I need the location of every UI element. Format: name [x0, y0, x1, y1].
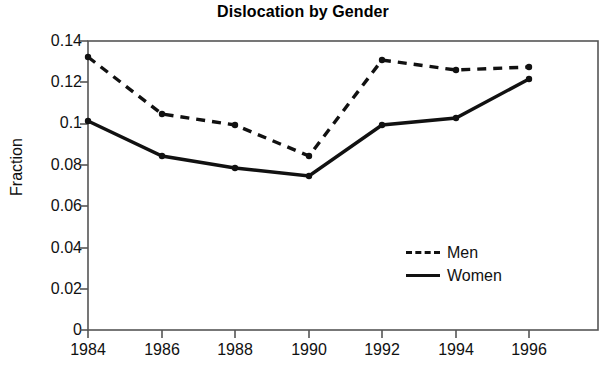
y-axis-ticks — [80, 41, 88, 330]
series-women-markers — [85, 76, 532, 179]
chart-legend: Men Women — [406, 241, 536, 289]
plot-area — [0, 0, 606, 371]
x-axis-ticks — [88, 330, 529, 338]
legend-item-men: Men — [406, 241, 536, 264]
series-men — [85, 54, 532, 159]
series-men-line — [88, 57, 529, 156]
legend-item-women: Women — [406, 264, 536, 287]
legend-solid-line-icon — [406, 274, 440, 277]
legend-label: Men — [447, 244, 478, 262]
legend-dashed-line-icon — [406, 251, 440, 254]
chart-container: Dislocation by Gender Fraction 0.14 0.12… — [0, 0, 606, 371]
series-women-line — [88, 79, 529, 176]
legend-label: Women — [447, 267, 502, 285]
series-women — [85, 76, 532, 179]
